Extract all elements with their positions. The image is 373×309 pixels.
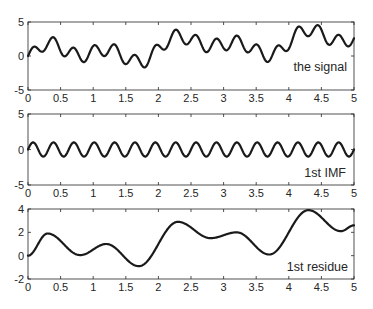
- x-tick-label: 3: [221, 187, 227, 199]
- x-tick-label: 1.5: [118, 92, 133, 104]
- x-tick-label: 4.5: [314, 187, 329, 199]
- x-tick-label: 2.5: [183, 281, 198, 293]
- x-tick-label: 1.5: [118, 187, 133, 199]
- x-tick-label: 1: [90, 281, 96, 293]
- panel-label: 1st residue: [287, 260, 348, 274]
- y-tick-label: 0: [18, 144, 24, 156]
- x-tick-label: 0.5: [53, 281, 68, 293]
- x-tick-label: 3: [221, 92, 227, 104]
- y-tick-label: 5: [18, 108, 24, 120]
- x-tick-label: 4.5: [314, 281, 329, 293]
- x-tick-label: 0: [25, 187, 31, 199]
- x-tick-label: 1.5: [118, 281, 133, 293]
- imf-curve: [28, 142, 354, 156]
- figure: 00.511.522.533.544.55 -505 the signal 00…: [0, 0, 373, 309]
- x-tick-label: 2: [155, 187, 161, 199]
- panel-residue: 00.511.522.533.544.55 -2024 1st residue: [14, 203, 357, 293]
- y-tick-label: 5: [18, 16, 24, 28]
- residue-curve: [28, 210, 354, 266]
- x-tick-label: 3.5: [249, 187, 264, 199]
- panel-label: 1st IMF: [304, 166, 346, 180]
- x-tick-label: 1: [90, 187, 96, 199]
- y-tick-label: -2: [14, 273, 24, 285]
- x-tick-label: 4: [286, 187, 292, 199]
- x-tick-label: 5: [351, 281, 357, 293]
- y-tick-label: 0: [18, 250, 24, 262]
- x-tick-label: 5: [351, 187, 357, 199]
- x-tick-label: 1: [90, 92, 96, 104]
- x-tick-label: 3.5: [249, 281, 264, 293]
- x-tick-label: 3.5: [249, 92, 264, 104]
- x-tick-label: 3: [221, 281, 227, 293]
- x-tick-label: 0.5: [53, 187, 68, 199]
- panel-imf: 00.511.522.533.544.55 -505 1st IMF: [14, 108, 357, 199]
- x-tick-label: 2.5: [183, 187, 198, 199]
- panel-signal: 00.511.522.533.544.55 -505 the signal: [14, 16, 357, 104]
- x-tick-label: 0: [25, 92, 31, 104]
- x-tick-label: 2: [155, 92, 161, 104]
- panel-label: the signal: [293, 60, 347, 74]
- y-tick-label: 4: [18, 203, 24, 215]
- x-tick-label: 4.5: [314, 92, 329, 104]
- y-tick-label: 2: [18, 226, 24, 238]
- x-tick-label: 4: [286, 92, 292, 104]
- x-ticks: 00.511.522.533.544.55: [25, 209, 357, 293]
- x-tick-label: 4: [286, 281, 292, 293]
- y-tick-label: -5: [14, 84, 24, 96]
- x-tick-label: 2: [155, 281, 161, 293]
- x-tick-label: 0: [25, 281, 31, 293]
- x-tick-label: 2.5: [183, 92, 198, 104]
- y-tick-label: 0: [18, 50, 24, 62]
- y-tick-label: -5: [14, 179, 24, 191]
- x-tick-label: 0.5: [53, 92, 68, 104]
- x-tick-label: 5: [351, 92, 357, 104]
